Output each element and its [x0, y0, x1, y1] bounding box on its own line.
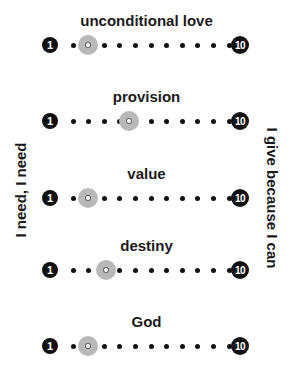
- scale-dot[interactable]: [164, 43, 169, 48]
- scale-dot[interactable]: [149, 344, 154, 349]
- scale-min-badge: 1: [42, 262, 58, 278]
- scale-dot[interactable]: [164, 344, 169, 349]
- selected-marker[interactable]: [96, 260, 116, 280]
- scale-row: unconditional love110: [0, 12, 293, 72]
- scale-dot[interactable]: [211, 119, 216, 124]
- scale-dot[interactable]: [102, 119, 107, 124]
- scale-label: unconditional love: [0, 12, 293, 29]
- scale-min-badge: 1: [42, 190, 58, 206]
- scale-dot[interactable]: [133, 344, 138, 349]
- scale-dot[interactable]: [71, 196, 76, 201]
- scale-dot[interactable]: [149, 43, 154, 48]
- scale-label: God: [0, 313, 293, 330]
- scale-max-badge: 10: [231, 189, 249, 207]
- scale-row: provision110: [0, 88, 293, 148]
- selected-marker[interactable]: [78, 188, 98, 208]
- scale-row: destiny110: [0, 237, 293, 297]
- scale-dot[interactable]: [164, 196, 169, 201]
- selected-marker[interactable]: [119, 111, 139, 131]
- scale-dot[interactable]: [180, 344, 185, 349]
- scale-dot[interactable]: [149, 119, 154, 124]
- scale-label: provision: [0, 88, 293, 105]
- scale-dot[interactable]: [71, 43, 76, 48]
- scale-dot[interactable]: [211, 344, 216, 349]
- scale-dot[interactable]: [71, 119, 76, 124]
- scale-dot[interactable]: [149, 268, 154, 273]
- scale-dot[interactable]: [195, 43, 200, 48]
- scale-dot[interactable]: [195, 344, 200, 349]
- scale-dot[interactable]: [117, 268, 122, 273]
- selected-marker[interactable]: [78, 336, 98, 356]
- scale-row: value110: [0, 165, 293, 225]
- scale-dot[interactable]: [164, 268, 169, 273]
- scale-dot[interactable]: [133, 196, 138, 201]
- scale-dot[interactable]: [180, 119, 185, 124]
- scale-dot[interactable]: [180, 268, 185, 273]
- scale-dot[interactable]: [211, 196, 216, 201]
- scale-min-badge: 1: [42, 338, 58, 354]
- scale-dot[interactable]: [133, 268, 138, 273]
- scale-dot[interactable]: [195, 196, 200, 201]
- scale-max-badge: 10: [231, 337, 249, 355]
- scale-dot[interactable]: [102, 344, 107, 349]
- scale-dot[interactable]: [117, 43, 122, 48]
- scale-min-badge: 1: [42, 37, 58, 53]
- scale-dot[interactable]: [164, 119, 169, 124]
- scale-dot[interactable]: [211, 43, 216, 48]
- scale-dot[interactable]: [117, 196, 122, 201]
- scale-dot[interactable]: [149, 196, 154, 201]
- scale-dot[interactable]: [195, 119, 200, 124]
- scale-dot[interactable]: [180, 196, 185, 201]
- scale-label: destiny: [0, 237, 293, 254]
- scale-label: value: [0, 165, 293, 182]
- scale-dot[interactable]: [211, 268, 216, 273]
- scale-dot[interactable]: [71, 268, 76, 273]
- scale-max-badge: 10: [231, 261, 249, 279]
- scale-row: God110: [0, 313, 293, 366]
- scale-max-badge: 10: [231, 112, 249, 130]
- scale-dot[interactable]: [102, 43, 107, 48]
- scale-dot[interactable]: [102, 196, 107, 201]
- scale-dot[interactable]: [86, 268, 91, 273]
- scale-dot[interactable]: [86, 119, 91, 124]
- scale-dot[interactable]: [180, 43, 185, 48]
- selected-marker[interactable]: [78, 35, 98, 55]
- scale-dot[interactable]: [71, 344, 76, 349]
- scale-dot[interactable]: [133, 43, 138, 48]
- scale-dot[interactable]: [195, 268, 200, 273]
- scale-max-badge: 10: [231, 36, 249, 54]
- scale-dot[interactable]: [117, 344, 122, 349]
- scale-min-badge: 1: [42, 113, 58, 129]
